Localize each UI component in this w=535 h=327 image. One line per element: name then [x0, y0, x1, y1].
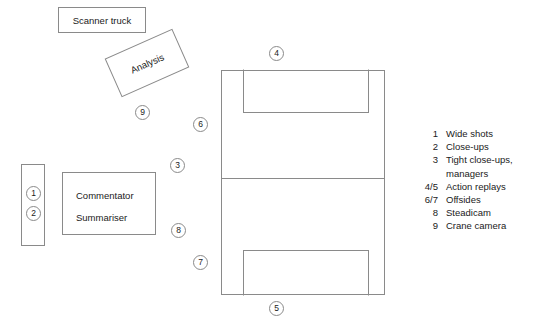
legend: 1 Wide shots 2 Close-ups 3 Tight close-u…: [412, 127, 527, 233]
camera-marker-6[interactable]: 6: [193, 117, 208, 132]
penalty-box-top: [243, 69, 369, 113]
camera-marker-3[interactable]: 3: [170, 158, 185, 173]
legend-key: 8: [412, 206, 438, 219]
camera-marker-4[interactable]: 4: [269, 46, 284, 61]
legend-key: 4/5: [412, 180, 438, 193]
camera-marker-7[interactable]: 7: [193, 255, 208, 270]
camera-marker-1[interactable]: 1: [26, 186, 41, 201]
commentator-label: Commentator: [76, 190, 134, 201]
diagram-canvas: Scanner truck Analysis Commentator Summa…: [0, 0, 535, 327]
legend-row: 8 Steadicam: [412, 206, 527, 219]
legend-row: 3 Tight close-ups, managers: [412, 153, 527, 179]
legend-text: Steadicam: [438, 206, 491, 219]
halfway-line: [221, 178, 385, 179]
legend-text: Wide shots: [438, 127, 493, 140]
legend-key: 3: [412, 153, 438, 166]
legend-text: Crane camera: [438, 219, 506, 232]
summariser-label: Summariser: [76, 212, 127, 223]
legend-text: Offsides: [438, 193, 481, 206]
analysis-label: Analysis: [106, 30, 188, 96]
legend-text: Action replays: [438, 180, 506, 193]
legend-row: 6/7 Offsides: [412, 193, 527, 206]
camera-marker-9[interactable]: 9: [135, 105, 150, 120]
commentary-position-box: [21, 164, 45, 246]
commentator-box: Commentator Summariser: [62, 172, 156, 235]
legend-text: Close-ups: [438, 140, 489, 153]
legend-row: 9 Crane camera: [412, 219, 527, 232]
legend-text: Tight close-ups, managers: [438, 153, 513, 179]
legend-key: 2: [412, 140, 438, 153]
penalty-box-bottom: [243, 250, 369, 296]
legend-key: 6/7: [412, 193, 438, 206]
camera-marker-2[interactable]: 2: [26, 206, 41, 221]
legend-key: 9: [412, 219, 438, 232]
scanner-truck-label: Scanner truck: [59, 8, 145, 32]
legend-key: 1: [412, 127, 438, 140]
legend-row: 2 Close-ups: [412, 140, 527, 153]
camera-marker-5[interactable]: 5: [269, 301, 284, 316]
camera-marker-8[interactable]: 8: [171, 223, 186, 238]
legend-row: 4/5 Action replays: [412, 180, 527, 193]
legend-row: 1 Wide shots: [412, 127, 527, 140]
scanner-truck-box: Scanner truck: [58, 7, 146, 33]
analysis-box: Analysis: [105, 29, 190, 97]
